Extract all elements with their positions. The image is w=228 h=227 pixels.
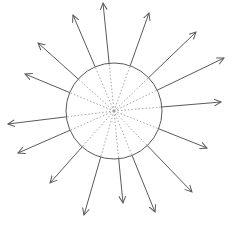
dotted-radii [66, 63, 161, 159]
arrow [38, 43, 78, 79]
arrow [84, 157, 101, 215]
arrow [73, 15, 95, 67]
dotted-radius [109, 63, 114, 111]
dotted-radius [114, 111, 159, 129]
arrow [50, 147, 82, 183]
dotted-radius [114, 78, 149, 111]
dotted-radius [114, 111, 147, 146]
arrow [8, 117, 66, 124]
arrow [147, 146, 192, 192]
arrows [8, 3, 224, 215]
arrow [157, 58, 224, 90]
arrow [119, 159, 123, 203]
arrow [25, 74, 70, 93]
radial-diagram [0, 0, 228, 227]
dotted-radius [114, 111, 132, 155]
arrow [159, 129, 207, 148]
arrow [162, 102, 221, 107]
dotted-radius [78, 79, 114, 111]
dotted-radius [114, 111, 119, 159]
dotted-radius [95, 67, 114, 111]
arrow [103, 3, 109, 63]
arrow [130, 13, 149, 66]
arrow [18, 130, 70, 153]
dotted-radius [70, 93, 114, 111]
dotted-radius [101, 111, 114, 157]
arrow [132, 155, 155, 212]
arrow [149, 32, 196, 78]
diagram-canvas [0, 0, 228, 227]
